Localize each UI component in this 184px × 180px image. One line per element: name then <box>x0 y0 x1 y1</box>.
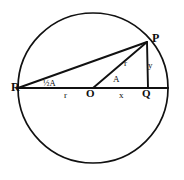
segment-label-oq: x <box>119 91 124 100</box>
point-label-o: O <box>86 88 95 99</box>
segment-radius-op <box>93 42 147 88</box>
point-label-r: R <box>11 81 20 93</box>
point-label-q: Q <box>142 88 151 99</box>
geometry-figure: R O Q P r x r y ½A A <box>0 0 184 180</box>
angle-label-a-at-o: A <box>113 75 120 84</box>
point-label-p: P <box>152 32 159 44</box>
angle-label-half-a-at-r: ½A <box>43 79 56 88</box>
segment-label-ro: r <box>64 91 67 100</box>
segment-chord-rp <box>18 42 147 88</box>
segment-label-op: r <box>124 59 127 68</box>
segment-label-pq: y <box>148 61 153 70</box>
